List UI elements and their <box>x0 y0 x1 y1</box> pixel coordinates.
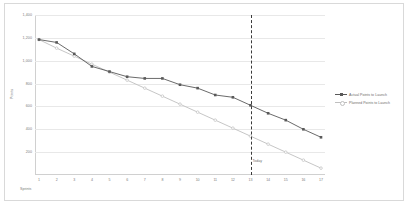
data-point-marker <box>320 167 323 170</box>
data-point-marker <box>267 143 270 146</box>
x-axis-tick-label: 3 <box>73 178 75 182</box>
chart-legend: Actual Points to LaunchPlanned Points to… <box>335 92 403 108</box>
data-point-marker <box>161 95 164 98</box>
y-axis-tick-label: 400 <box>26 127 32 131</box>
data-point-marker <box>55 47 58 50</box>
data-point-marker <box>284 151 287 154</box>
y-axis-tick-label: 800 <box>26 82 32 86</box>
data-point-marker <box>214 119 217 122</box>
data-point-marker <box>126 75 129 78</box>
legend-marker-icon <box>335 92 347 97</box>
x-axis-tick-label: 12 <box>231 178 235 182</box>
data-point-marker <box>267 112 270 115</box>
data-point-marker <box>320 136 323 139</box>
x-axis-tick-label: 4 <box>91 178 93 182</box>
data-point-marker <box>73 53 76 56</box>
legend-item[interactable]: Actual Points to Launch <box>335 92 403 97</box>
x-axis-tick-label: 11 <box>213 178 217 182</box>
x-axis-tick-label: 13 <box>249 178 253 182</box>
x-axis-tick-label: 1 <box>38 178 40 182</box>
data-point-marker <box>143 87 146 90</box>
data-point-marker <box>38 38 41 41</box>
data-point-marker <box>302 128 305 131</box>
y-axis-tick-label: 600 <box>26 104 32 108</box>
legend-item-label: Planned Points to Launch <box>349 101 390 105</box>
data-point-marker <box>196 111 199 114</box>
data-point-marker <box>179 103 182 106</box>
x-axis-tick-label: 14 <box>266 178 270 182</box>
legend-marker-icon <box>335 100 347 105</box>
data-point-marker <box>232 127 235 130</box>
x-axis-title: Sprints <box>20 187 31 191</box>
x-axis-tick-label: 5 <box>109 178 111 182</box>
data-point-marker <box>91 65 94 68</box>
chart-container: Points Sprints 1,4001,2001,0008006004002… <box>4 3 404 201</box>
x-axis-tick-label: 7 <box>144 178 146 182</box>
y-axis-tick-label: 1,200 <box>23 36 33 40</box>
legend-item[interactable]: Planned Points to Launch <box>335 100 403 105</box>
data-point-marker <box>302 159 305 162</box>
x-axis-tick-label: 16 <box>301 178 305 182</box>
series-lines <box>35 15 325 175</box>
y-axis-tick-label: 200 <box>26 150 32 154</box>
data-point-marker <box>55 41 58 44</box>
data-point-marker <box>73 55 76 58</box>
data-point-marker <box>143 77 146 80</box>
data-point-marker <box>232 96 235 99</box>
x-axis-tick-label: 6 <box>126 178 128 182</box>
data-point-marker <box>196 87 199 90</box>
y-axis-title: Points <box>10 89 14 99</box>
series-line-actual <box>39 40 321 138</box>
data-point-marker <box>108 70 111 73</box>
x-axis-tick-label: 9 <box>179 178 181 182</box>
plot-area: 1,4001,2001,000800600400200 123456789101… <box>35 15 325 175</box>
y-axis-tick-label: 1,000 <box>23 59 33 63</box>
x-axis-tick-label: 2 <box>56 178 58 182</box>
today-marker-line <box>251 15 252 175</box>
data-point-marker <box>161 77 164 80</box>
x-axis-tick-label: 8 <box>161 178 163 182</box>
today-marker-label: Today <box>253 159 263 163</box>
y-axis-tick-label: 1,400 <box>23 13 33 17</box>
x-axis-tick-label: 15 <box>284 178 288 182</box>
x-axis-tick-label: 17 <box>319 178 323 182</box>
data-point-marker <box>91 63 94 66</box>
x-axis-tick-label: 10 <box>196 178 200 182</box>
data-point-marker <box>126 79 129 82</box>
data-point-marker <box>179 83 182 86</box>
data-point-marker <box>284 119 287 122</box>
data-point-marker <box>214 94 217 97</box>
legend-item-label: Actual Points to Launch <box>349 93 387 97</box>
